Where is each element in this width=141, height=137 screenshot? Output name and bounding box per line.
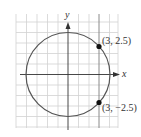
point-lower-label: (3, −2.5) — [102, 103, 137, 113]
y-axis-label: y — [65, 10, 69, 20]
x-axis-arrow-icon — [113, 72, 120, 77]
y-axis-arrow-icon — [66, 22, 71, 29]
point-upper — [96, 44, 101, 49]
point-upper-label: (3, 2.5) — [102, 36, 131, 46]
point-lower — [96, 100, 101, 105]
x-axis-label: x — [122, 69, 126, 79]
diagram-canvas — [0, 0, 141, 137]
